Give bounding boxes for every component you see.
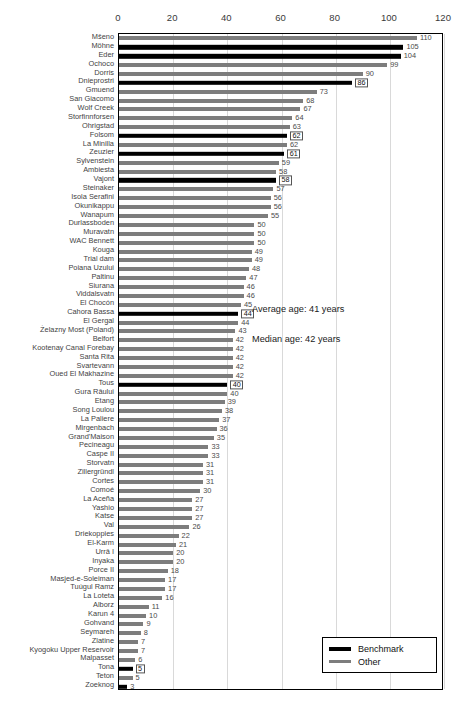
bar-row: 110 bbox=[119, 34, 442, 43]
bar-trial-dam bbox=[119, 258, 252, 262]
bar-la-ace-a bbox=[119, 498, 192, 502]
bar-value-label: 99 bbox=[390, 61, 398, 68]
bar-row: 33 bbox=[119, 442, 442, 451]
bar-eder bbox=[119, 54, 401, 58]
bar-value-label: 58 bbox=[279, 168, 287, 175]
bar-row: 42 bbox=[119, 354, 442, 363]
bar-la-paliere bbox=[119, 418, 219, 422]
bar-row: 56 bbox=[119, 203, 442, 212]
bar-tu-gul-ramz bbox=[119, 587, 165, 591]
x-axis-tick-120: 120 bbox=[435, 12, 451, 23]
bar-row: 46 bbox=[119, 283, 442, 292]
bar-katse bbox=[119, 516, 192, 520]
bar-value-label: 46 bbox=[247, 283, 255, 290]
bar-value-label: 6 bbox=[138, 656, 142, 663]
legend-label-other: Other bbox=[358, 657, 381, 667]
bar-value-label: 48 bbox=[252, 266, 260, 273]
bar-folsom bbox=[119, 134, 287, 138]
bar-row: 56 bbox=[119, 194, 442, 203]
bar-value-label: 16 bbox=[165, 594, 173, 601]
bar-santa-rita bbox=[119, 356, 233, 360]
bar-la-loteta bbox=[119, 596, 162, 600]
bar-row: 68 bbox=[119, 96, 442, 105]
bar-seymareh bbox=[119, 631, 141, 635]
bar-row: 18 bbox=[119, 567, 442, 576]
bar-kouga bbox=[119, 250, 252, 254]
bar-row: 30 bbox=[119, 487, 442, 496]
bar-song-loulou bbox=[119, 409, 222, 413]
bar-value-label: 27 bbox=[195, 496, 203, 503]
bar-alborz bbox=[119, 605, 149, 609]
bar-row: 11 bbox=[119, 602, 442, 611]
bar-dnieprostri bbox=[119, 81, 352, 85]
bar-san-giacomo bbox=[119, 99, 303, 103]
x-axis-tick-60: 60 bbox=[275, 12, 286, 23]
bar-steinaker bbox=[119, 187, 273, 191]
bar-row: 26 bbox=[119, 522, 442, 531]
bar-value-label: 20 bbox=[176, 559, 184, 566]
bar-value-label: 36 bbox=[220, 425, 228, 432]
bar-value-label: 44 bbox=[241, 319, 249, 326]
gridline bbox=[444, 34, 445, 689]
bar-row: 105 bbox=[119, 43, 442, 52]
bar-value-label: 55 bbox=[271, 212, 279, 219]
bar-m-hne bbox=[119, 45, 403, 49]
bar-value-label: 8 bbox=[144, 630, 148, 637]
bar-dorris bbox=[119, 72, 363, 76]
bar-value-label: 49 bbox=[255, 248, 263, 255]
bar-value-label: 57 bbox=[276, 186, 284, 193]
bar-row: 31 bbox=[119, 469, 442, 478]
bar-value-label: 45 bbox=[244, 301, 252, 308]
bar-row: 21 bbox=[119, 540, 442, 549]
bar-inyaka bbox=[119, 560, 173, 564]
bar-la-minilla bbox=[119, 143, 287, 147]
annotation-median-age: Median age: 42 years bbox=[252, 334, 340, 344]
bar-belfort bbox=[119, 338, 233, 342]
bar-row: 27 bbox=[119, 505, 442, 514]
bar-row: 57 bbox=[119, 185, 442, 194]
bar-row: 36 bbox=[119, 425, 442, 434]
bar-row: 62 bbox=[119, 141, 442, 150]
bar-gohvand bbox=[119, 622, 143, 626]
bar-driekoppies bbox=[119, 534, 179, 538]
bar-row: 73 bbox=[119, 87, 442, 96]
bar-row: 17 bbox=[119, 584, 442, 593]
bar-row: 49 bbox=[119, 256, 442, 265]
bar-row: 61 bbox=[119, 149, 442, 158]
legend-label-benchmark: Benchmark bbox=[358, 644, 404, 654]
legend-item-other: Other bbox=[329, 655, 430, 668]
bar-row: 33 bbox=[119, 451, 442, 460]
bar-muravatn bbox=[119, 232, 254, 236]
bar-wolf-creek bbox=[119, 107, 300, 111]
bar-value-label: 68 bbox=[306, 97, 314, 104]
bar-row: 27 bbox=[119, 513, 442, 522]
bar-kyogoku-upper-reservoir bbox=[119, 649, 138, 653]
bar-val bbox=[119, 525, 189, 529]
bar-value-label: 40 bbox=[230, 390, 238, 397]
bar-value-label: 3 bbox=[130, 683, 134, 690]
bar-porce-ii bbox=[119, 569, 168, 573]
bar-gura-r-ului bbox=[119, 392, 227, 396]
bar-value-label: 46 bbox=[247, 292, 255, 299]
bar-row: 58 bbox=[119, 167, 442, 176]
bar-row: 42 bbox=[119, 345, 442, 354]
bar-row: 31 bbox=[119, 460, 442, 469]
bar-value-label: 31 bbox=[206, 479, 214, 486]
bar-value-label: 10 bbox=[149, 612, 157, 619]
bar-masjed-e-soleiman bbox=[119, 578, 165, 582]
bar-value-label: 64 bbox=[295, 115, 303, 122]
bar-isola-serafini bbox=[119, 196, 271, 200]
bar-poiana-uzului bbox=[119, 267, 249, 271]
bar-value-label: 35 bbox=[217, 434, 225, 441]
bar-value-label: 56 bbox=[274, 203, 282, 210]
bar-row: 86 bbox=[119, 78, 442, 87]
bar-value-label: 26 bbox=[192, 523, 200, 530]
bar-row: 58 bbox=[119, 176, 442, 185]
bar-wanapum bbox=[119, 214, 268, 218]
bar-ambiesta bbox=[119, 170, 276, 174]
bar-wac-bennett bbox=[119, 241, 254, 245]
bar-row: 39 bbox=[119, 398, 442, 407]
bar-row: 3 bbox=[119, 682, 442, 691]
bar-paltinu bbox=[119, 276, 246, 280]
bar-value-label: 17 bbox=[168, 576, 176, 583]
